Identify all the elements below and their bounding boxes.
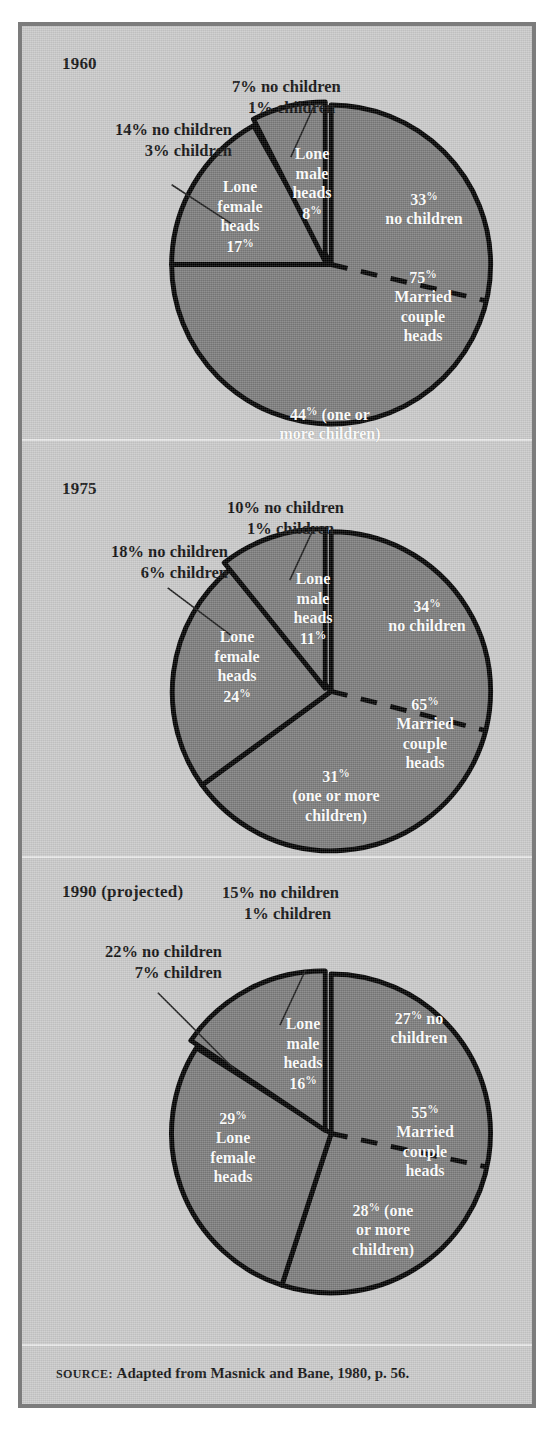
callout-lone-female-1990: 22% no children 7% children <box>26 941 222 983</box>
label-lone-male-1975: Lone male heads 11% <box>273 569 353 648</box>
pie-panel-1975: 1975 10% no children 1% children 18% no … <box>22 439 532 856</box>
pie-svg-1990 <box>22 856 532 1344</box>
label-lone-female-1960: Lone female heads 17% <box>195 177 285 256</box>
panel-year-1960: 1960 <box>62 54 97 74</box>
pie-panel-1990: 1990 (projected) 15% no children 1% chil… <box>22 856 532 1344</box>
callout-lone-female-1960: 14% no children 3% children <box>32 119 232 161</box>
source-text: Adapted from Masnick and Bane, 1980, p. … <box>117 1365 410 1381</box>
label-married-children-1975: 31% (one or more children) <box>250 766 422 825</box>
callout-lone-male-1960: 7% no children 1% children <box>232 76 341 118</box>
callout-lone-male-1975: 10% no children 1% children <box>227 497 344 539</box>
label-married-total-1990: 55% Married couple heads <box>372 1102 478 1181</box>
label-lone-male-1990: Lone male heads 16% <box>261 1014 345 1093</box>
figure-panel: 1960 7% no children 1% children 14% no c… <box>18 22 536 1408</box>
pie-panel-1960: 1960 7% no children 1% children 14% no c… <box>22 26 532 439</box>
callout-lone-female-1975: 18% no children 6% children <box>28 541 228 583</box>
source-caption: SOURCE: Adapted from Masnick and Bane, 1… <box>56 1365 409 1382</box>
panel-divider-3 <box>22 1344 532 1346</box>
panel-year-1990: 1990 (projected) <box>62 882 183 902</box>
label-lone-female-1990: 29% Lone female heads <box>185 1108 281 1187</box>
label-married-children-1960: 44% (one or more children) <box>230 404 430 444</box>
callout-lone-male-1990: 15% no children 1% children <box>222 882 339 924</box>
label-lone-female-1975: Lone female heads 24% <box>189 627 285 706</box>
label-married-total-1960: 75% Married couple heads <box>368 267 478 346</box>
label-married-no-children-1990: 27% no children <box>357 1008 481 1048</box>
label-married-children-1990: 28% (one or more children) <box>317 1200 449 1259</box>
label-married-total-1975: 65% Married couple heads <box>372 694 478 773</box>
label-married-no-children-1960: 33% no children <box>362 189 486 229</box>
label-married-no-children-1975: 34% no children <box>365 596 489 636</box>
panel-year-1975: 1975 <box>62 479 97 499</box>
label-lone-male-1960: Lone male heads 8% <box>274 144 350 223</box>
source-label: SOURCE: <box>56 1367 113 1381</box>
